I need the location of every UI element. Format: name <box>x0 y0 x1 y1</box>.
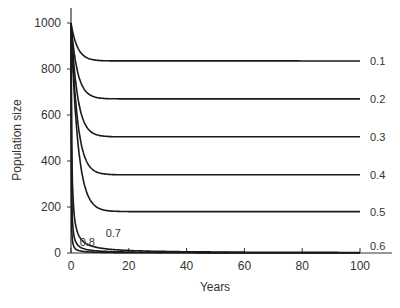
x-tick-label: 60 <box>238 259 252 273</box>
series-labels: 0.10.20.30.40.50.60.70.8 <box>80 55 386 253</box>
y-tick-label: 800 <box>41 62 61 76</box>
series-line-0.5 <box>71 23 360 212</box>
series-label-0.2: 0.2 <box>370 93 385 105</box>
series-label-0.3: 0.3 <box>370 131 385 143</box>
series-label-0.8: 0.8 <box>80 236 95 248</box>
series-label-0.5: 0.5 <box>370 206 385 218</box>
series-line-0.1 <box>71 23 360 61</box>
y-tick-label: 0 <box>54 246 61 260</box>
x-tick-label: 0 <box>68 259 75 273</box>
x-tick-label: 40 <box>180 259 194 273</box>
chart-canvas: 02004006008001000020406080100 0.10.20.30… <box>0 0 400 308</box>
series-line-0.8 <box>71 23 360 253</box>
x-tick-label: 100 <box>350 259 370 273</box>
axes: 02004006008001000020406080100 <box>34 8 392 273</box>
series-label-0.4: 0.4 <box>370 169 385 181</box>
y-tick-label: 1000 <box>34 16 61 30</box>
x-axis-label: Years <box>200 280 230 294</box>
y-tick-label: 400 <box>41 154 61 168</box>
series-lines <box>71 23 360 253</box>
series-label-0.7: 0.7 <box>106 227 121 239</box>
series-label-0.6: 0.6 <box>370 240 385 252</box>
x-tick-label: 80 <box>296 259 310 273</box>
series-line-0.3 <box>71 23 360 137</box>
series-label-0.1: 0.1 <box>370 55 385 67</box>
x-tick-label: 20 <box>122 259 136 273</box>
y-tick-label: 200 <box>41 200 61 214</box>
y-axis-label: Population size <box>10 99 24 181</box>
series-line-0.6 <box>71 23 360 253</box>
y-tick-label: 600 <box>41 108 61 122</box>
series-line-0.7 <box>71 23 360 253</box>
population-chart: 02004006008001000020406080100 0.10.20.30… <box>0 0 400 308</box>
